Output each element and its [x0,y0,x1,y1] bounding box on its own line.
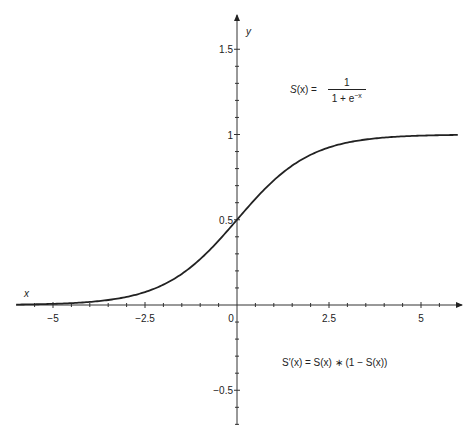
formula-denominator: 1 + e−x [328,90,366,104]
formula-fn: S [290,84,297,95]
x-axis-label: x [23,288,30,299]
sigmoid-chart: −5−2.502.55−0.50.511.5 x y [0,0,473,437]
formula-arg: (x) [297,84,309,95]
formula-exponent: −x [354,92,362,99]
formula-numerator: 1 [328,77,366,90]
y-tick-label: −0.5 [213,385,233,396]
x-tick-label: 2.5 [322,313,336,324]
y-tick-label: 0.5 [219,215,233,226]
formula-fraction: 1 1 + e−x [328,77,366,104]
x-tick-label: 5 [418,313,424,324]
y-tick-label: 1 [227,130,233,141]
x-tick-label: −5 [47,313,59,324]
sigmoid-formula: S(x) = 1 1 + e−x [290,77,366,104]
x-tick-label: 0 [228,313,234,324]
formula-equals: = [308,84,319,95]
y-tick-label: 1.5 [219,44,233,55]
axis-ticks [35,49,458,424]
x-tick-label: −2.5 [135,313,155,324]
y-axis-label: y [245,26,252,37]
derivative-formula: S′(x) = S(x) ∗ (1 − S(x)) [282,357,387,368]
